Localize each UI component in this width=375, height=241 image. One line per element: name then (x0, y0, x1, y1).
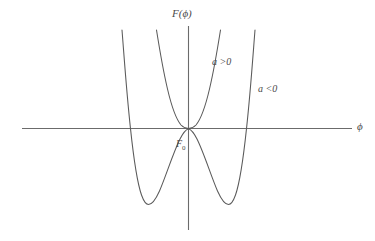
plot-canvas (0, 0, 375, 241)
origin-value-subscript: 0 (182, 144, 186, 152)
curve-label-a-positive: a >0 (212, 57, 231, 67)
figure-container: F(ϕ) ϕ a >0 a <0 F0 (0, 0, 375, 241)
y-axis-label: F(ϕ) (172, 8, 192, 19)
x-axis-label: ϕ (357, 121, 363, 132)
curve-label-a-negative: a <0 (258, 84, 277, 94)
origin-value-label: F0 (176, 139, 186, 152)
